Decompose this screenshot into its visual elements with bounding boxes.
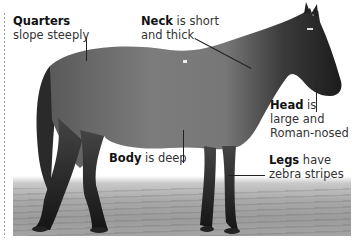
label-head-desc-2: large and: [270, 112, 324, 126]
label-head-desc-1: is: [303, 98, 316, 112]
label-neck-desc-2: and thick: [141, 28, 194, 42]
label-head-desc-3: Roman-nosed: [270, 126, 349, 140]
label-neck-term: Neck: [141, 14, 173, 28]
label-legs-desc-2: zebra stripes: [269, 167, 344, 181]
label-body: Body is deep: [109, 151, 187, 165]
label-head-term: Head: [270, 98, 303, 112]
label-body-term: Body: [109, 151, 141, 165]
label-legs: Legs have zebra stripes: [269, 153, 344, 181]
label-neck: Neck is short and thick: [141, 14, 219, 42]
label-head: Head is large and Roman-nosed: [270, 98, 349, 140]
label-legs-desc-1: have: [299, 153, 331, 167]
label-legs-term: Legs: [269, 153, 299, 167]
label-quarters: Quarters slope steeply: [13, 14, 89, 42]
leader-line-body: [183, 130, 184, 163]
label-quarters-term: Quarters: [13, 14, 70, 28]
leader-line-head: [316, 82, 317, 112]
label-quarters-desc: slope steeply: [13, 28, 89, 42]
label-body-desc: is deep: [141, 151, 186, 165]
label-neck-desc-1: is short: [173, 14, 219, 28]
leader-line-quarters: [86, 38, 87, 61]
leader-line-legs: [228, 175, 265, 176]
